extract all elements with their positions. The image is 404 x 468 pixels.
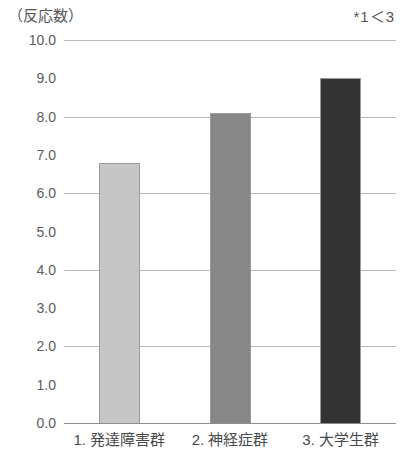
bar-2 <box>210 113 251 423</box>
y-tick-label: 1.0 <box>37 377 56 393</box>
y-tick-label: 10.0 <box>29 32 56 48</box>
plot-area <box>64 40 396 423</box>
bar-3 <box>320 78 361 423</box>
x-category-label-2: 2. 神経症群 <box>192 428 269 449</box>
y-tick-label: 8.0 <box>37 109 56 125</box>
y-tick-label: 9.0 <box>37 70 56 86</box>
significance-annotation: *1＜3 <box>353 5 395 26</box>
y-axis-title: （反応数） <box>8 4 83 25</box>
y-tick-label: 4.0 <box>37 262 56 278</box>
bar-1 <box>99 163 140 423</box>
y-tick-label: 6.0 <box>37 185 56 201</box>
bar-chart-figure: （反応数） *1＜3 0.01.02.03.04.05.06.07.08.09.… <box>0 0 404 468</box>
y-tick-label: 5.0 <box>37 224 56 240</box>
y-tick-label: 2.0 <box>37 338 56 354</box>
axis-baseline <box>64 423 396 424</box>
chart-header: （反応数） *1＜3 <box>0 4 404 30</box>
x-axis-category-labels: 1. 発達障害群2. 神経症群3. 大学生群 <box>64 428 396 458</box>
y-tick-label: 7.0 <box>37 147 56 163</box>
gridline <box>64 40 396 41</box>
y-axis-tick-labels: 0.01.02.03.04.05.06.07.08.09.010.0 <box>0 40 60 423</box>
y-tick-label: 0.0 <box>37 415 56 431</box>
x-category-label-3: 3. 大学生群 <box>302 428 379 449</box>
x-category-label-1: 1. 発達障害群 <box>73 428 165 449</box>
y-tick-label: 3.0 <box>37 300 56 316</box>
